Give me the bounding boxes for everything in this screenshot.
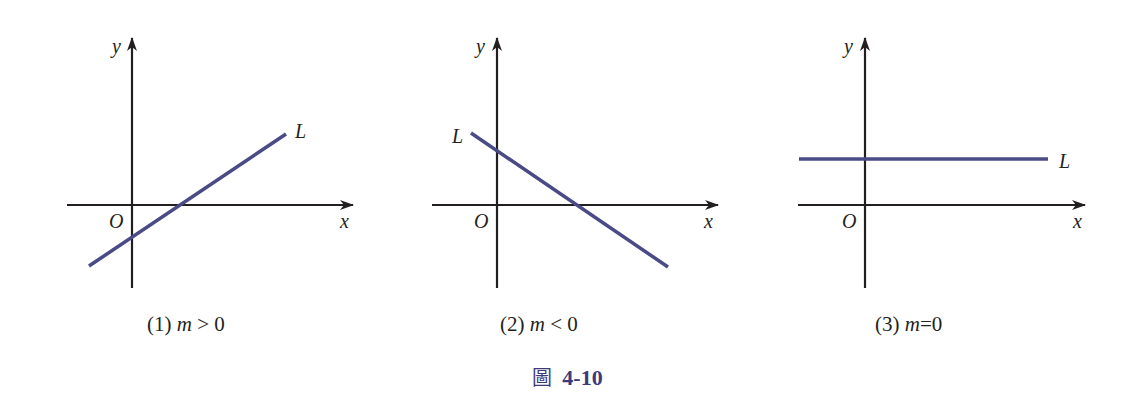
figure-title: 圖4-10 [0, 362, 1135, 391]
panel-1-graph: y x O L [67, 35, 353, 288]
panel-3-caption-rel: =0 [920, 312, 942, 336]
panel-1-caption: (1) m > 0 [147, 312, 225, 337]
panel-2-origin-label: O [474, 210, 488, 232]
panel-3-x-label: x [1072, 210, 1082, 232]
panel-1-x-label: x [339, 210, 349, 232]
figure-title-number: 4-10 [562, 365, 602, 390]
panel-1-origin-label: O [109, 210, 123, 232]
panel-1-caption-num: (1) [147, 312, 172, 336]
panel-3-y-label: y [842, 35, 853, 58]
panel-2-caption: (2) m < 0 [500, 312, 578, 337]
panel-2-caption-rel: < 0 [545, 312, 578, 336]
panel-3-line-label: L [1058, 150, 1070, 172]
panel-2-line-L [471, 133, 668, 267]
panel-2-graph: y x O L [432, 35, 718, 288]
panel-2-caption-num: (2) [500, 312, 525, 336]
panel-2-line-label: L [451, 125, 463, 147]
panel-2-y-label: y [474, 35, 485, 58]
panel-1-y-label: y [110, 35, 121, 58]
figure-title-char: 圖 [532, 366, 552, 390]
panel-1-line-label: L [294, 120, 306, 142]
panel-2-caption-var: m [530, 312, 545, 336]
panel-3-caption-num: (3) [875, 312, 900, 336]
panel-1-caption-var: m [177, 312, 192, 336]
panel-3-caption-var: m [905, 312, 920, 336]
panel-3-origin-label: O [842, 210, 856, 232]
panel-1-line-L [89, 134, 286, 266]
figure-canvas: y x O L y x O L y x O L [0, 0, 1135, 409]
panel-3-caption: (3) m=0 [875, 312, 942, 337]
panel-3-graph: y x O L [798, 35, 1085, 288]
panel-2-x-label: x [703, 210, 713, 232]
panel-1-caption-rel: > 0 [192, 312, 225, 336]
